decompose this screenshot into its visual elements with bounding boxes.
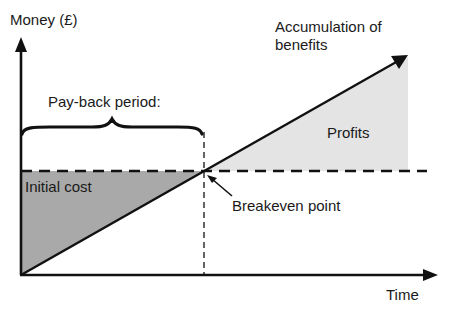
- payback-diagram: [0, 0, 456, 311]
- accumulation-label-line1: Accumulation of: [275, 18, 382, 35]
- payback-label: Pay-back period:: [48, 93, 161, 110]
- accumulation-label-line2: benefits: [275, 36, 328, 53]
- x-axis-arrow-icon: [423, 269, 438, 281]
- x-axis-label: Time: [386, 286, 419, 303]
- initial-cost-label: Initial cost: [25, 178, 92, 195]
- profits-label: Profits: [327, 124, 370, 141]
- breakeven-label: Breakeven point: [232, 197, 340, 214]
- payback-brace-icon: [22, 119, 202, 134]
- y-axis-arrow-icon: [15, 37, 27, 52]
- y-axis-label: Money (£): [10, 11, 78, 28]
- breakeven-pointer-line: [212, 179, 232, 196]
